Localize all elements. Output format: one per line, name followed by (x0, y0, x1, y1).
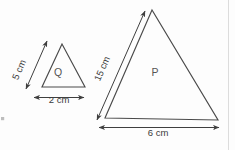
scan-artifact (1, 117, 4, 120)
triangle-q-slant-label: 5 cm (10, 58, 28, 81)
triangle-q-shape (42, 44, 85, 87)
triangle-p-slant-label: 15 cm (92, 54, 113, 82)
triangle-q-slant-label-group: 5 cm (10, 58, 28, 81)
geometry-diagram: Q P 2 cm 6 cm 5 cm 15 cm (0, 0, 235, 150)
triangle-p-base-label: 6 cm (148, 127, 169, 138)
triangle-q-base-label: 2 cm (49, 94, 70, 105)
diagram-canvas: Q P 2 cm 6 cm 5 cm 15 cm (0, 0, 235, 150)
triangle-q-label: Q (54, 66, 62, 78)
triangle-p-slant-label-group: 15 cm (92, 54, 113, 82)
triangle-p-label: P (151, 66, 158, 78)
triangle-p-shape (105, 10, 218, 120)
